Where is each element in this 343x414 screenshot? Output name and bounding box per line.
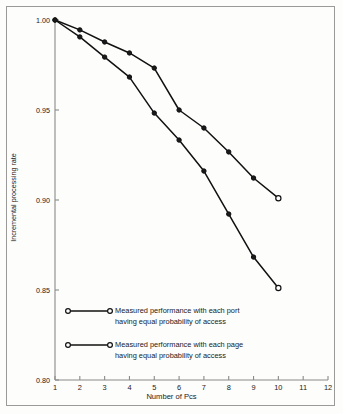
data-point-marker (251, 255, 255, 259)
x-tick-label: 9 (246, 383, 262, 392)
legend-label-port: Measured performance with each port havi… (115, 306, 239, 327)
x-tick-label: 4 (121, 383, 137, 392)
x-tick-label: 12 (320, 383, 336, 392)
data-point-marker (152, 66, 156, 70)
data-point-marker (227, 212, 231, 216)
legend-lines (66, 309, 113, 348)
data-point-marker (102, 55, 106, 59)
x-tick-label: 6 (171, 383, 187, 392)
legend-label-page: Measured performance with each page havi… (115, 340, 243, 361)
x-tick-label: 1 (47, 383, 63, 392)
data-point-marker (251, 176, 255, 180)
data-point-marker (202, 169, 206, 173)
x-tick-label: 3 (97, 383, 113, 392)
data-point-marker (202, 126, 206, 130)
y-tick-label: 0.85 (24, 286, 50, 295)
data-point-marker (276, 285, 281, 290)
x-tick-label: 10 (270, 383, 286, 392)
y-axis-title: Incremental processing rate (9, 138, 18, 258)
legend-label-page-line2: having equal probability of access (115, 351, 243, 362)
legend-marker (66, 343, 71, 348)
data-point-marker (53, 18, 57, 22)
x-tick-label: 2 (72, 383, 88, 392)
data-point-marker (102, 40, 106, 44)
data-point-marker (78, 35, 82, 39)
data-point-marker (276, 196, 281, 201)
legend-label-port-line1: Measured performance with each port (115, 306, 239, 317)
data-point-marker (127, 51, 131, 55)
legend-marker (108, 309, 113, 314)
data-point-marker (127, 75, 131, 79)
data-point-marker (78, 28, 82, 32)
x-tick-label: 8 (221, 383, 237, 392)
legend-label-page-line1: Measured performance with each page (115, 340, 243, 351)
x-axis-title: Number of Pcs (0, 392, 343, 401)
data-point-marker (227, 150, 231, 154)
y-tick-label: 1.00 (24, 16, 50, 25)
x-tick-label: 7 (196, 383, 212, 392)
x-tick-label: 11 (295, 383, 311, 392)
data-series (53, 18, 281, 291)
y-tick-label: 0.90 (24, 196, 50, 205)
y-tick-label: 0.95 (24, 106, 50, 115)
legend-marker (108, 343, 113, 348)
data-point-marker (177, 108, 181, 112)
data-point-marker (177, 138, 181, 142)
legend-label-port-line2: having equal probability of access (115, 317, 239, 328)
legend-marker (66, 309, 71, 314)
x-tick-label: 5 (146, 383, 162, 392)
data-point-marker (152, 111, 156, 115)
